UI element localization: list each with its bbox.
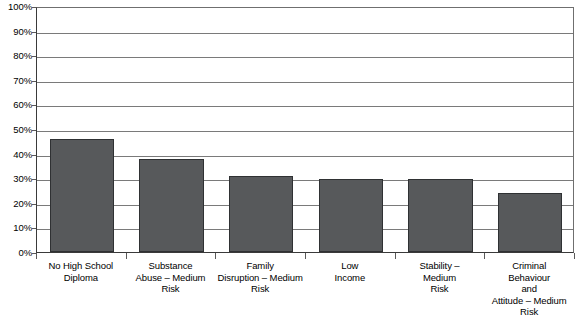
bar-slot (127, 8, 217, 252)
y-tick-label: 20% (0, 199, 32, 209)
y-tick-label: 10% (0, 223, 32, 233)
bar[interactable] (319, 179, 384, 252)
bar-slot (216, 8, 306, 252)
y-tick-label: 70% (0, 76, 32, 86)
x-axis-label-line: Attitude – Medium (476, 295, 582, 307)
x-axis-labels: No High SchoolDiplomaSubstanceAbuse – Me… (36, 260, 574, 323)
bar-slot (396, 8, 486, 252)
x-axis-label-line: Risk (476, 306, 582, 318)
x-tick-mark (126, 253, 127, 259)
bar-slot (485, 8, 574, 252)
x-axis-label-line: Risk (207, 283, 313, 295)
y-tick-label: 50% (0, 125, 32, 135)
x-axis-label: CriminalBehaviourandAttitude – MediumRis… (476, 260, 582, 318)
y-tick-label: 30% (0, 174, 32, 184)
plot-area (36, 7, 574, 253)
x-axis-ticks (36, 253, 574, 259)
bar-slot (37, 8, 127, 252)
bars-layer (37, 8, 573, 252)
x-tick-mark (215, 253, 216, 259)
x-axis-label-line: Behaviour (476, 272, 582, 284)
y-tick-label: 100% (0, 2, 32, 12)
x-tick-mark (305, 253, 306, 259)
bar-slot (306, 8, 396, 252)
bar[interactable] (50, 139, 115, 252)
x-axis-label-line: and (476, 283, 582, 295)
x-tick-mark (574, 253, 575, 259)
x-tick-mark (484, 253, 485, 259)
bar[interactable] (408, 179, 473, 252)
x-axis-label-line: Criminal (476, 260, 582, 272)
y-tick-label: 40% (0, 150, 32, 160)
y-tick-label: 60% (0, 100, 32, 110)
bar[interactable] (139, 159, 204, 252)
y-tick-label: 80% (0, 51, 32, 61)
y-axis: 0%10%20%30%40%50%60%70%80%90%100% (0, 0, 32, 260)
y-tick-label: 0% (0, 248, 32, 258)
bar[interactable] (498, 193, 563, 252)
x-tick-mark (395, 253, 396, 259)
bar[interactable] (229, 176, 294, 252)
x-tick-mark (36, 253, 37, 259)
y-tick-label: 90% (0, 27, 32, 37)
bar-chart: 0%10%20%30%40%50%60%70%80%90%100% No Hig… (0, 0, 583, 323)
